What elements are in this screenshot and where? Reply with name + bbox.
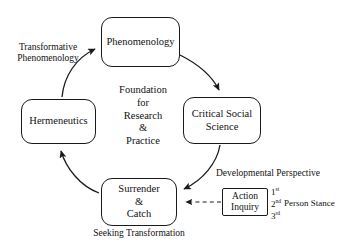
node-surrender-and-catch-label: Surrender&Catch <box>115 183 162 220</box>
node-action-inquiry-label: ActionInquiry <box>228 191 262 213</box>
node-action-inquiry[interactable]: ActionInquiry <box>222 188 268 216</box>
node-phenomenology-label: Phenomenology <box>103 36 177 48</box>
node-critical-social-science-label: Critical SocialScience <box>189 108 255 133</box>
ordinal-second: 2nd <box>271 198 281 210</box>
ordinal-first-suffix: st <box>276 186 280 192</box>
ordinal-second-suffix: nd <box>276 198 282 204</box>
arrow-critical-to-surrender <box>184 145 220 189</box>
node-hermeneutics-label: Hermeneutics <box>26 115 90 127</box>
node-critical-social-science[interactable]: Critical SocialScience <box>183 97 261 144</box>
arrow-surrender-to-hermeneutics <box>61 151 99 193</box>
node-hermeneutics[interactable]: Hermeneutics <box>21 99 96 144</box>
ordinal-third-suffix: rd <box>276 210 281 216</box>
label-transformative-phenomenology: TransformativePhenomenology <box>8 42 88 65</box>
center-foundation-text: FoundationforResearch&Practice <box>110 84 176 148</box>
arrow-phenomenology-to-critical <box>180 55 219 90</box>
person-stance-label: Person Stance <box>284 198 335 209</box>
ordinal-first: 1st <box>271 186 281 198</box>
ordinal-third: 3rd <box>271 210 281 222</box>
person-stance-ordinals: 1st 2nd 3rd <box>271 186 281 222</box>
node-surrender-and-catch[interactable]: Surrender&Catch <box>101 178 177 226</box>
label-seeking-transformation: Seeking Transformation <box>78 228 200 239</box>
node-phenomenology[interactable]: Phenomenology <box>101 17 180 67</box>
person-stance-block: 1st 2nd 3rd Person Stance <box>271 186 335 222</box>
label-developmental-perspective: Developmental Perspective <box>212 168 324 179</box>
diagram-canvas: Phenomenology Critical SocialScience Sur… <box>0 0 346 251</box>
